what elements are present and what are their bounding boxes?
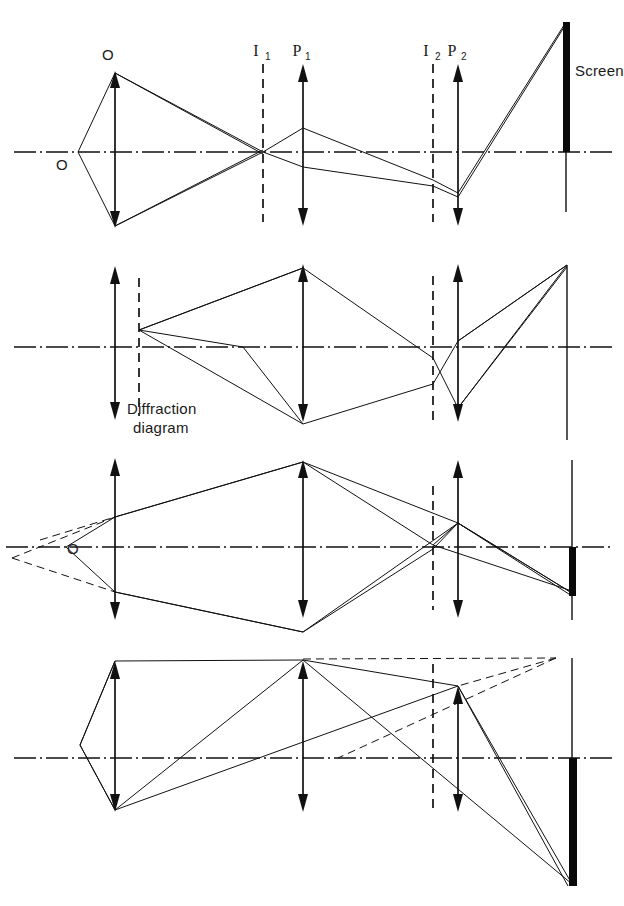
panel-2-diffraction-plane-source: Diffraction diagram [14,264,612,440]
panel-3-virtual-object: O [6,458,612,632]
svg-text:2: 2 [435,51,441,62]
plane-mid-arrow-panel3 [298,460,308,618]
panel-4-tilted-illumination [14,658,612,886]
label-object-axis-panel3: O [67,540,79,557]
label-object-top-panel1: O [102,46,114,63]
plane-p2-arrow-panel3 [453,460,463,618]
diffraction-arrow-panel2 [110,266,120,420]
plane-p1-arrow-panel4 [298,661,308,812]
optical-ray-figure: O O I 1 P 1 I 2 P 2 Screen [0,0,624,906]
label-object-axis-panel1: O [56,156,68,173]
label-plane-p2-panel1: P 2 [448,42,467,62]
label-diffraction-line1-panel2: Diffraction [127,400,196,417]
label-diffraction-line2-panel2: diagram [133,419,189,436]
plane-p2-arrow-panel2 [453,264,463,422]
screen-bar-panel4 [569,758,577,886]
panel-1-conjugate-object-planes: O O I 1 P 1 I 2 P 2 Screen [14,22,624,228]
label-screen-panel1: Screen [575,62,624,79]
ray-bundle-panel4 [80,660,572,886]
ray-bundle-panel1 [78,22,566,226]
plane-p1-arrow-panel3 [110,458,120,620]
label-plane-i1-panel1: I 1 [253,42,271,62]
object-arrow-panel1 [110,71,120,228]
object-arrow-panel4 [110,661,120,812]
screen-bar-panel1 [563,22,570,152]
label-plane-i2-panel1: I 2 [423,42,441,62]
ray-bundle-panel2 [139,265,567,424]
svg-text:I: I [253,42,258,59]
ray-diagram-canvas: O O I 1 P 1 I 2 P 2 Screen [0,0,624,906]
svg-text:1: 1 [265,51,271,62]
svg-text:P: P [293,42,302,59]
label-plane-p1-panel1: P 1 [293,42,311,62]
svg-text:I: I [423,42,428,59]
svg-text:P: P [448,42,457,59]
dashed-extension-rays-panel4 [303,658,556,758]
svg-text:2: 2 [461,51,467,62]
svg-text:1: 1 [305,51,311,62]
plane-p2-arrow-panel1 [453,64,463,226]
plane-p1-arrow-panel2 [298,264,308,422]
screen-bar-panel3 [569,547,576,596]
plane-p1-arrow-panel1 [298,64,308,226]
virtual-object-construction-panel3 [12,517,115,592]
